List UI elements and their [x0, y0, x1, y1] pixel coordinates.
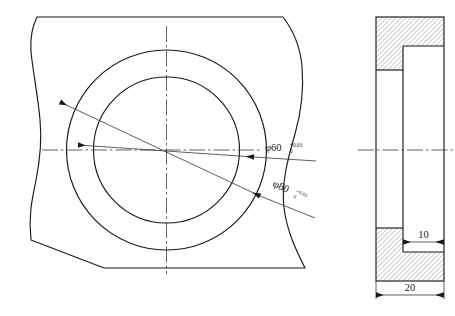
technical-drawing-canvas: φ60 +0.03 0 φ80 +0.03 0	[0, 0, 455, 316]
dim-20-label: 20	[405, 282, 416, 293]
dim-phi80-line	[60, 102, 260, 196]
dim-10-label: 10	[418, 229, 429, 240]
dim-phi60: φ60 +0.03 0	[78, 142, 316, 162]
side-section-view: 10 20	[358, 17, 455, 299]
dim-phi80-tol-lower: 0	[293, 193, 298, 200]
part-outer-profile	[30, 17, 305, 268]
section-hatch-top	[376, 17, 444, 70]
front-view: φ60 +0.03 0 φ80 +0.03 0	[30, 17, 316, 274]
dim-10: 10	[403, 229, 444, 242]
dim-phi60-line	[78, 145, 254, 157]
dim-phi60-leader	[254, 157, 316, 161]
dim-phi60-label: φ60	[265, 142, 282, 153]
section-hatch-bottom	[376, 228, 444, 281]
dim-phi80-label: φ80	[271, 178, 291, 195]
dim-phi60-tol-lower: 0	[290, 148, 293, 154]
dim-phi80: φ80 +0.03 0	[60, 102, 315, 218]
dim-phi80-leader	[260, 196, 315, 218]
drawing-svg: φ60 +0.03 0 φ80 +0.03 0	[0, 0, 455, 316]
dim-20: 20	[376, 281, 444, 299]
